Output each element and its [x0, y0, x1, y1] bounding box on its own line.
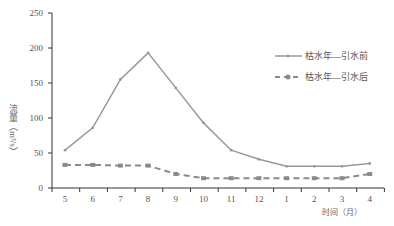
- data-point: [173, 172, 178, 176]
- data-point: [367, 172, 372, 176]
- y-tick-label: 50: [34, 148, 44, 158]
- data-point: [202, 122, 205, 125]
- x-tick-label: 11: [227, 194, 236, 204]
- x-tick-label: 2: [312, 194, 317, 204]
- data-point: [229, 176, 234, 180]
- data-point: [63, 163, 68, 167]
- data-point: [285, 165, 288, 168]
- data-point: [146, 164, 151, 168]
- data-point: [312, 176, 317, 180]
- y-tick-label: 250: [30, 8, 44, 18]
- data-point: [118, 164, 123, 168]
- data-point: [174, 87, 177, 90]
- legend-marker: [286, 75, 291, 80]
- x-tick-label: 7: [118, 194, 123, 204]
- y-axis-label: 流量（m³/s）: [6, 104, 18, 156]
- data-point: [256, 176, 261, 180]
- x-tick-label: 9: [174, 194, 179, 204]
- y-tick-label: 0: [39, 183, 44, 193]
- data-point: [147, 52, 150, 55]
- data-point: [91, 126, 94, 129]
- x-tick-label: 8: [146, 194, 151, 204]
- x-tick-label: 6: [90, 194, 95, 204]
- data-point: [119, 78, 122, 81]
- y-tick-label: 100: [30, 113, 44, 123]
- y-tick-label: 200: [30, 43, 44, 53]
- data-point: [258, 158, 261, 161]
- x-axis-label: 时间（月）: [322, 206, 362, 217]
- x-tick-label: 12: [254, 194, 263, 204]
- data-point: [64, 149, 67, 152]
- data-point: [340, 176, 345, 180]
- data-point: [341, 165, 344, 168]
- legend-marker: [287, 55, 290, 58]
- data-point: [201, 176, 206, 180]
- data-point: [368, 162, 371, 165]
- x-tick-label: 4: [367, 194, 372, 204]
- y-tick-label: 150: [30, 78, 44, 88]
- data-point: [284, 176, 289, 180]
- legend-label: 枯水年—引水前: [305, 50, 368, 61]
- data-point: [313, 165, 316, 168]
- x-tick-label: 10: [199, 194, 209, 204]
- x-tick-label: 5: [63, 194, 68, 204]
- data-point: [90, 163, 95, 167]
- x-tick-label: 3: [340, 194, 345, 204]
- data-point: [230, 149, 233, 152]
- legend-label: 枯水年—引水后: [305, 71, 368, 82]
- series-before-line: [65, 53, 370, 166]
- line-chart: 050100150200250567891011121234枯水年—引水前枯水年…: [0, 0, 394, 226]
- x-tick-label: 1: [284, 194, 289, 204]
